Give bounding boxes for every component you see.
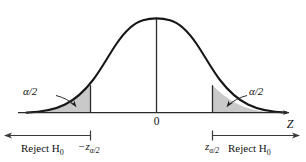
left-reject-label: Reject H0 <box>21 142 64 157</box>
right-reject-label: Reject H0 <box>228 142 271 157</box>
figure-container: α/2 α/2 0 Z Reject H0 −zα/2 zα/2 Reject … <box>0 0 306 162</box>
left-critical-value-subscript: α/2 <box>90 146 100 155</box>
right-critical-value-subscript: α/2 <box>209 146 219 155</box>
right-reject-text: Reject H <box>228 142 267 154</box>
left-critical-value-main: −z <box>78 140 90 152</box>
left-reject-text: Reject H <box>21 142 60 154</box>
center-zero-label: 0 <box>154 115 160 127</box>
left-reject-subscript: 0 <box>60 148 64 157</box>
right-reject-subscript: 0 <box>267 148 271 157</box>
normal-distribution-figure: α/2 α/2 0 Z Reject H0 −zα/2 zα/2 Reject … <box>0 0 306 162</box>
right-alpha-label: α/2 <box>249 85 264 97</box>
right-tail-shaded-region <box>213 85 277 112</box>
left-alpha-label: α/2 <box>23 85 38 97</box>
left-critical-value-label: −zα/2 <box>78 140 100 155</box>
z-axis-label: Z <box>287 117 294 131</box>
right-critical-value-label: zα/2 <box>204 140 219 155</box>
